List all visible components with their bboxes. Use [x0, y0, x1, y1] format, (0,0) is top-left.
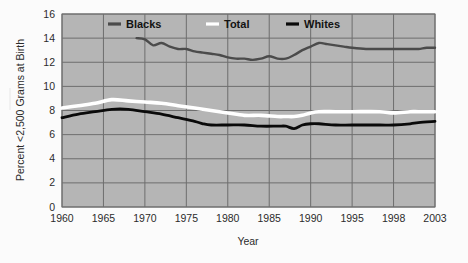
y-axis-title: Percent <2,500 Grams at Birth — [14, 39, 26, 181]
x-axis-title: Year — [237, 235, 259, 247]
y-tick-label: 8 — [49, 104, 55, 116]
y-tick-label: 4 — [49, 152, 55, 164]
y-tick-label: 2 — [49, 176, 55, 188]
y-tick-label: 16 — [43, 8, 55, 20]
legend-label-total: Total — [224, 18, 249, 30]
x-tick-label: 1975 — [175, 212, 199, 224]
x-tick-label: 1998 — [382, 212, 406, 224]
x-tick-label: 1995 — [340, 212, 364, 224]
y-tick-label: 0 — [49, 201, 55, 213]
line-chart: 0246810121416 19601965197019751980198519… — [0, 0, 468, 263]
x-tick-label: 1970 — [133, 212, 157, 224]
x-tick-label: 2003 — [423, 212, 447, 224]
x-tick-label: 1965 — [92, 212, 116, 224]
y-tick-label: 10 — [43, 80, 55, 92]
y-axis-tick-labels: 0246810121416 — [43, 8, 55, 213]
x-tick-label: 1980 — [216, 212, 240, 224]
y-tick-label: 6 — [49, 128, 55, 140]
y-tick-label: 14 — [43, 32, 55, 44]
legend-label-whites: Whites — [304, 18, 340, 30]
x-tick-label: 1990 — [299, 212, 323, 224]
x-axis-tick-labels: 1960196519701975198019851990199519982003 — [50, 212, 447, 224]
y-tick-label: 12 — [43, 56, 55, 68]
chart-legend: BlacksTotalWhites — [108, 18, 340, 30]
x-tick-label: 1960 — [50, 212, 74, 224]
chart-figure: 0246810121416 19601965197019751980198519… — [0, 0, 468, 263]
legend-label-blacks: Blacks — [126, 18, 161, 30]
x-tick-label: 1985 — [258, 212, 282, 224]
